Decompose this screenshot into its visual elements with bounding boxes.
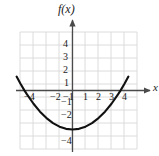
x-tick-label-4: 4 [122, 92, 127, 102]
parabola-plot [0, 0, 159, 156]
graph-figure: f(x) x −4 −2 −1 1 2 3 4 4 3 2 1 −1 −2 −4 [0, 0, 159, 156]
y-tick-label-neg2: −2 [61, 110, 72, 120]
y-tick-label-neg1: −1 [61, 97, 72, 107]
x-tick-label-3: 3 [109, 92, 114, 102]
x-axis-label: x [153, 82, 158, 93]
function-label: f(x) [58, 3, 75, 15]
y-tick-label-1: 1 [64, 78, 69, 88]
x-tick-label-2: 2 [96, 92, 101, 102]
y-tick-label-neg4: −4 [61, 136, 72, 146]
y-tick-label-3: 3 [63, 52, 68, 62]
x-tick-label-1: 1 [83, 92, 88, 102]
x-tick-label-neg4: −4 [24, 92, 35, 102]
y-tick-label-4: 4 [63, 39, 68, 49]
x-tick-label-neg2: −2 [50, 92, 61, 102]
y-tick-label-2: 2 [63, 65, 68, 75]
